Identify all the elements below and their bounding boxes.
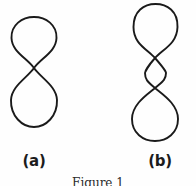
figure-caption: Figure 1: [0, 177, 196, 186]
panel-label-a: (a): [12, 152, 56, 170]
curve-figure-eight-a: [11, 17, 57, 127]
figure-container: (a) (b) Figure 1: [0, 0, 196, 186]
panel-label-b: (b): [138, 152, 182, 170]
curve-three-lobe-b: [132, 4, 178, 141]
